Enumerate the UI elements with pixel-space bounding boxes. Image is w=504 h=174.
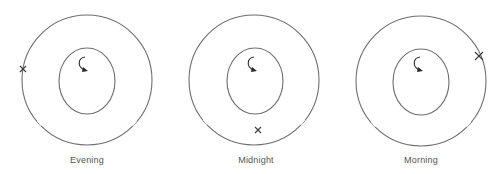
panel-label-midnight: Midnight (206, 155, 306, 165)
rotation-arrow-icon (414, 57, 423, 72)
panel-evening (20, 15, 152, 145)
panel-morning (356, 16, 486, 146)
panel-label-evening: Evening (37, 155, 137, 165)
outer-orbit (356, 16, 486, 146)
position-x-marker-icon (475, 52, 483, 60)
orbit-gap-right (132, 120, 136, 125)
diagram-canvas (0, 0, 504, 174)
panel-label-morning: Morning (371, 155, 471, 165)
rotation-arrow-icon (79, 57, 88, 72)
outer-orbit (189, 15, 319, 145)
orbit-gap-right (466, 121, 470, 126)
rotation-arrow-icon (248, 57, 257, 72)
inner-ellipse (59, 48, 115, 114)
orbit-gap-left (38, 120, 42, 125)
inner-ellipse (393, 49, 449, 115)
outer-orbit (22, 15, 152, 145)
orbit-gap-right (300, 119, 304, 124)
inner-ellipse (227, 48, 283, 114)
orbit-gap-left (204, 119, 208, 124)
panel-midnight (189, 15, 319, 145)
orbit-gap-left (372, 121, 376, 126)
position-x-marker-icon (255, 127, 261, 133)
